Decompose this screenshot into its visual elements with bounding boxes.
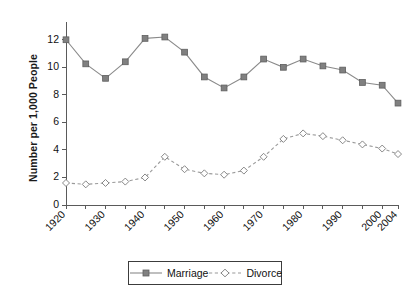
data-point-divorce: [359, 141, 366, 148]
data-point-marriage: [83, 61, 89, 67]
legend-label-marriage: Marriage: [167, 267, 208, 279]
data-point-marriage: [122, 59, 128, 65]
y-tick-label: 8: [53, 88, 59, 100]
series-line-marriage: [66, 37, 398, 103]
series-line-divorce: [66, 133, 398, 184]
data-point-divorce: [300, 130, 307, 137]
x-tick-label: 1920: [42, 208, 67, 233]
data-point-marriage: [395, 100, 401, 106]
legend-item-marriage: Marriage: [129, 267, 208, 279]
legend-label-divorce: Divorce: [246, 267, 282, 279]
data-point-marriage: [300, 56, 306, 62]
data-point-marriage: [182, 49, 188, 55]
data-point-marriage: [63, 37, 69, 43]
chart-legend: Marriage Divorce: [128, 261, 282, 285]
data-point-divorce: [82, 181, 89, 188]
data-point-divorce: [122, 178, 129, 185]
data-point-divorce: [339, 137, 346, 144]
data-point-divorce: [395, 151, 402, 158]
data-point-divorce: [181, 166, 188, 173]
data-point-marriage: [142, 35, 148, 41]
x-tick-label: 1950: [161, 208, 186, 233]
x-tick-label: 1980: [280, 208, 305, 233]
x-tick-label: 1930: [82, 208, 107, 233]
legend-marker-square-icon: [129, 267, 163, 279]
y-tick-label: 12: [47, 33, 59, 45]
data-point-divorce: [379, 145, 386, 152]
y-tick-label: 10: [47, 60, 59, 72]
y-tick-label: 4: [53, 143, 59, 155]
x-tick-label: 1990: [319, 208, 344, 233]
x-tick-label: 1970: [240, 208, 265, 233]
data-point-divorce: [260, 153, 267, 160]
plot-area: 0246810121920193019401950196019701980199…: [0, 0, 408, 293]
chart-container: Number per 1,000 People 0246810121920193…: [0, 0, 408, 293]
data-point-marriage: [320, 63, 326, 69]
y-tick-label: 2: [53, 170, 59, 182]
data-point-divorce: [63, 179, 70, 186]
data-point-divorce: [221, 171, 228, 178]
data-point-marriage: [280, 64, 286, 70]
legend-marker-diamond-icon: [208, 267, 242, 279]
data-point-marriage: [201, 74, 207, 80]
data-point-divorce: [201, 170, 208, 177]
data-point-marriage: [340, 67, 346, 73]
data-point-divorce: [240, 167, 247, 174]
data-point-divorce: [102, 179, 109, 186]
legend-item-divorce: Divorce: [208, 267, 282, 279]
x-tick-label: 1960: [201, 208, 226, 233]
data-point-marriage: [162, 34, 168, 40]
y-tick-label: 6: [53, 115, 59, 127]
data-point-marriage: [221, 85, 227, 91]
data-point-divorce: [319, 133, 326, 140]
data-point-marriage: [103, 75, 109, 81]
x-tick-label: 1940: [121, 208, 146, 233]
data-point-marriage: [360, 80, 366, 86]
data-point-marriage: [241, 74, 247, 80]
data-point-marriage: [261, 56, 267, 62]
data-point-marriage: [379, 82, 385, 88]
